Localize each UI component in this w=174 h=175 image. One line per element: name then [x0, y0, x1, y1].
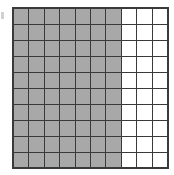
- grid-cell-shaded: [13, 120, 29, 136]
- grid-cell-shaded: [44, 120, 59, 136]
- grid-cell-shaded: [60, 104, 75, 120]
- shaded-fraction-grid: [12, 7, 169, 169]
- grid-cell-shaded: [106, 88, 121, 104]
- grid-cell-shaded: [75, 24, 90, 40]
- grid-row: [13, 72, 168, 88]
- grid-cell-unshaded: [152, 104, 168, 120]
- grid-cell-unshaded: [121, 8, 136, 24]
- figure-root: [0, 0, 174, 175]
- grid-cell-unshaded: [137, 24, 152, 40]
- grid-cell-shaded: [60, 40, 75, 56]
- grid-cell-unshaded: [121, 136, 136, 152]
- grid-cell-unshaded: [152, 72, 168, 88]
- grid-cell-shaded: [90, 120, 105, 136]
- grid-row: [13, 8, 168, 24]
- grid-cell-unshaded: [152, 120, 168, 136]
- grid-cell-unshaded: [137, 120, 152, 136]
- grid-cell-shaded: [106, 136, 121, 152]
- grid-cell-unshaded: [152, 136, 168, 152]
- grid-cell-shaded: [75, 56, 90, 72]
- grid-cell-shaded: [44, 152, 59, 168]
- grid-cell-shaded: [29, 152, 44, 168]
- grid-cell-shaded: [75, 8, 90, 24]
- grid-cell-unshaded: [121, 56, 136, 72]
- grid-container: [12, 7, 169, 169]
- grid-cell-shaded: [106, 56, 121, 72]
- grid-cell-shaded: [44, 40, 59, 56]
- grid-cell-unshaded: [121, 152, 136, 168]
- grid-cell-unshaded: [121, 72, 136, 88]
- grid-cell-shaded: [29, 120, 44, 136]
- grid-cell-shaded: [90, 40, 105, 56]
- grid-cell-unshaded: [152, 24, 168, 40]
- grid-cell-shaded: [75, 72, 90, 88]
- grid-cell-shaded: [29, 8, 44, 24]
- grid-cell-shaded: [13, 136, 29, 152]
- grid-cell-unshaded: [121, 104, 136, 120]
- grid-cell-shaded: [29, 40, 44, 56]
- grid-cell-shaded: [106, 40, 121, 56]
- grid-cell-unshaded: [137, 104, 152, 120]
- grid-cell-unshaded: [152, 8, 168, 24]
- grid-row: [13, 152, 168, 168]
- grid-cell-shaded: [60, 120, 75, 136]
- grid-cell-unshaded: [137, 40, 152, 56]
- grid-cell-shaded: [44, 24, 59, 40]
- grid-cell-shaded: [75, 120, 90, 136]
- grid-cell-shaded: [44, 56, 59, 72]
- grid-cell-shaded: [13, 24, 29, 40]
- grid-cell-unshaded: [121, 24, 136, 40]
- grid-body: [13, 8, 168, 168]
- grid-cell-shaded: [90, 8, 105, 24]
- grid-cell-unshaded: [137, 72, 152, 88]
- grid-cell-shaded: [90, 136, 105, 152]
- grid-cell-shaded: [60, 8, 75, 24]
- grid-cell-unshaded: [137, 152, 152, 168]
- grid-cell-shaded: [60, 88, 75, 104]
- grid-cell-shaded: [60, 152, 75, 168]
- grid-cell-unshaded: [137, 8, 152, 24]
- grid-cell-shaded: [106, 104, 121, 120]
- grid-cell-shaded: [106, 72, 121, 88]
- grid-cell-shaded: [60, 24, 75, 40]
- grid-cell-unshaded: [152, 40, 168, 56]
- grid-cell-shaded: [106, 152, 121, 168]
- grid-cell-shaded: [13, 40, 29, 56]
- grid-cell-shaded: [29, 104, 44, 120]
- grid-cell-unshaded: [137, 88, 152, 104]
- grid-cell-shaded: [90, 56, 105, 72]
- grid-cell-shaded: [44, 88, 59, 104]
- grid-cell-shaded: [44, 104, 59, 120]
- grid-cell-shaded: [75, 152, 90, 168]
- grid-cell-shaded: [44, 8, 59, 24]
- grid-cell-unshaded: [152, 152, 168, 168]
- grid-row: [13, 136, 168, 152]
- grid-row: [13, 40, 168, 56]
- grid-cell-shaded: [90, 88, 105, 104]
- grid-cell-shaded: [106, 120, 121, 136]
- grid-row: [13, 104, 168, 120]
- grid-cell-shaded: [13, 104, 29, 120]
- grid-cell-unshaded: [121, 88, 136, 104]
- grid-cell-shaded: [44, 72, 59, 88]
- grid-row: [13, 24, 168, 40]
- grid-cell-shaded: [60, 72, 75, 88]
- grid-cell-shaded: [13, 88, 29, 104]
- grid-cell-unshaded: [152, 88, 168, 104]
- grid-cell-shaded: [29, 56, 44, 72]
- grid-cell-shaded: [106, 8, 121, 24]
- grid-cell-shaded: [90, 104, 105, 120]
- grid-row: [13, 56, 168, 72]
- grid-cell-unshaded: [152, 56, 168, 72]
- grid-cell-shaded: [29, 72, 44, 88]
- grid-cell-shaded: [90, 72, 105, 88]
- grid-cell-shaded: [29, 88, 44, 104]
- grid-cell-shaded: [60, 136, 75, 152]
- grid-row: [13, 88, 168, 104]
- grid-cell-shaded: [13, 72, 29, 88]
- edge-speck-artifact: [1, 12, 4, 19]
- grid-cell-shaded: [90, 152, 105, 168]
- grid-cell-unshaded: [137, 56, 152, 72]
- grid-cell-shaded: [75, 104, 90, 120]
- grid-cell-shaded: [75, 136, 90, 152]
